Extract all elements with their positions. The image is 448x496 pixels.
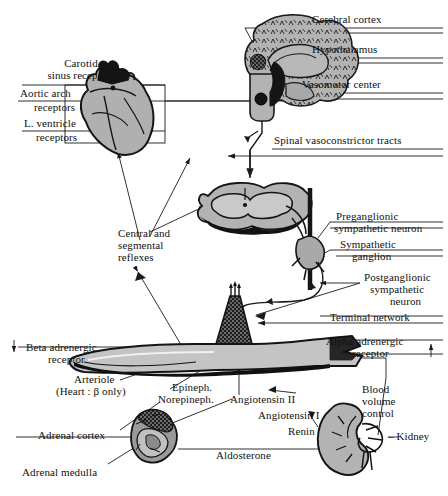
label-blood-volume-control-line2: volume — [362, 396, 396, 408]
label-spinal-vasoconstrictor-tracts: Spinal vasoconstrictor tracts — [274, 135, 402, 147]
label-central-segmental-reflexes-line2: segmental — [118, 240, 164, 252]
label-carotid-sinus-receptors-line2: sinus receptors — [18, 70, 144, 82]
label-renin: Renin — [288, 426, 315, 438]
label-hypothalamus: Hypothalamus — [312, 44, 377, 56]
arteriole-illustration — [70, 281, 362, 377]
label-postganglionic-line3: neuron — [390, 296, 421, 308]
label-preganglionic-line2: sympathetic neuron — [334, 223, 422, 235]
label-l-ventricle-receptors-line2: receptors — [36, 132, 77, 144]
label-sympathetic-ganglion-line1: Sympathetic — [340, 239, 396, 251]
label-adrenal-medulla: Adrenal medulla — [22, 467, 97, 479]
label-cerebral-cortex: Cerebral cortex — [312, 14, 382, 26]
label-arteriole-line2: (Heart : β only) — [56, 386, 126, 398]
label-preganglionic-line1: Preganglionic — [336, 211, 398, 223]
brain-illustration — [244, 15, 358, 178]
label-angiotensin-i: Angiotensin I — [258, 410, 320, 422]
label-postganglionic-line1: Postganglionic — [364, 272, 431, 284]
label-aortic-arch-receptors-line2: receptors — [34, 102, 75, 114]
label-alpha-adrenergic-line1: Alpha adrenergic — [326, 336, 403, 348]
label-beta-adrenergic-line2: receptor — [48, 354, 85, 366]
label-epineph-line1: Epineph. — [172, 382, 212, 394]
adrenal-gland-illustration — [131, 410, 177, 463]
label-l-ventricle-receptors-line1: L. ventricle — [24, 118, 76, 130]
label-epineph-line2: Norepineph. — [158, 394, 214, 406]
label-vasomotor-center: Vasomotor center — [302, 79, 381, 91]
label-postganglionic-line2: sympathetic — [370, 284, 424, 296]
diagram-canvas: Cerebral cortex Hypothalamus Vasomotor c… — [0, 0, 448, 496]
spinal-cord-illustration — [198, 183, 325, 322]
label-sympathetic-ganglion-line2: ganglion — [352, 251, 391, 263]
label-alpha-adrenergic-line2: receptor — [352, 348, 389, 360]
label-terminal-network: Terminal network — [330, 312, 410, 324]
label-angiotensin-ii: Angiotensin II — [230, 394, 295, 406]
label-blood-volume-control-line1: Blood — [362, 384, 389, 396]
label-blood-volume-control-line3: control — [362, 408, 394, 420]
label-kidney: – Kidney — [388, 431, 429, 443]
label-carotid-sinus-receptors-line1: Carotid — [22, 58, 140, 70]
label-beta-adrenergic-line1: Beta adrenergic — [26, 342, 97, 354]
label-central-segmental-reflexes-line3: reflexes — [118, 252, 154, 264]
label-arteriole-line1: Arteriole — [74, 374, 115, 386]
label-central-segmental-reflexes-line1: Central and — [118, 228, 170, 240]
label-aldosterone: Aldosterone — [216, 450, 271, 462]
label-adrenal-cortex: Adrenal cortex — [38, 430, 105, 442]
label-aortic-arch-receptors-line1: Aortic arch — [20, 88, 71, 100]
